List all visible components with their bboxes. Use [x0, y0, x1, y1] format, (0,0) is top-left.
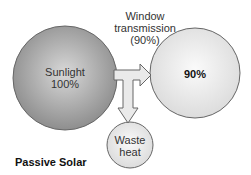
flow-arrow	[114, 64, 151, 123]
loss-line1: Waste	[108, 134, 152, 146]
flow-label-line1: Window	[105, 10, 185, 22]
source-label: Sunlight	[30, 66, 100, 78]
window-transmission-label: Window transmission (90%)	[105, 10, 185, 46]
sunlight-label: Sunlight 100%	[30, 66, 100, 90]
source-value: 100%	[30, 78, 100, 90]
diagram-title: Passive Solar	[15, 156, 87, 168]
flow-label-line2: transmission	[105, 22, 185, 34]
waste-heat-label: Waste heat	[108, 134, 152, 158]
output-value: 90%	[170, 68, 220, 80]
loss-line2: heat	[108, 146, 152, 158]
flow-label-line3: (90%)	[105, 34, 185, 46]
